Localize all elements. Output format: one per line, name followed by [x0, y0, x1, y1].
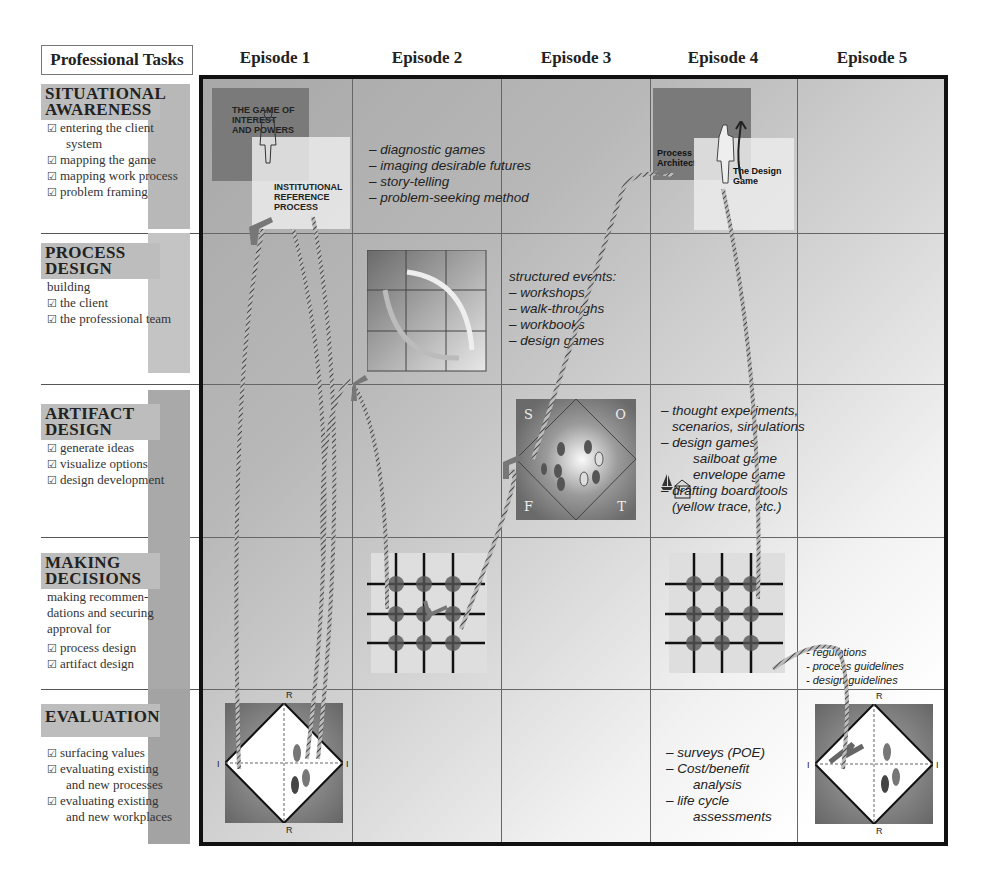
- checkbox-icon: ☑: [47, 120, 60, 136]
- checkbox-icon: ☑: [47, 656, 60, 672]
- task-process-design: PROCESSDESIGN building ☑the client ☑the …: [41, 243, 193, 383]
- task-item: ☑the professional team: [47, 311, 193, 327]
- task-artifact-design: ARTIFACTDESIGN ☑generate ideas ☑visualiz…: [41, 404, 193, 534]
- task-item: ☑mapping work process: [47, 168, 193, 184]
- checkbox-icon: ☑: [47, 152, 60, 168]
- checkbox-icon: ☑: [47, 472, 60, 488]
- episode-1-header: Episode 1: [200, 48, 350, 68]
- task-item: ☑surfacing values: [47, 745, 193, 761]
- episode-3-header: Episode 3: [501, 48, 651, 68]
- task-items: ☑entering the client system ☑mapping the…: [41, 120, 193, 200]
- task-item: ☑visualize options: [47, 456, 193, 472]
- task-item: ☑generate ideas: [47, 440, 193, 456]
- row-divider: [41, 384, 199, 385]
- checkbox-icon: ☑: [47, 168, 60, 184]
- task-items: building ☑the client ☑the professional t…: [41, 279, 193, 327]
- task-items: ☑generate ideas ☑visualize options ☑desi…: [41, 440, 193, 488]
- episode-task-matrix: THE GAME OFINTERESTAND POWERS INSTITUTIO…: [199, 75, 948, 846]
- task-item: ☑process design: [47, 640, 193, 656]
- task-making-decisions: MAKINGDECISIONS making recommen- dations…: [41, 553, 193, 683]
- checkbox-icon: ☑: [47, 295, 60, 311]
- task-title: SITUATIONALAWARENESS: [41, 84, 160, 120]
- task-item: ☑problem framing: [47, 184, 193, 200]
- checkbox-icon: ☑: [47, 761, 60, 777]
- episode-5-header: Episode 5: [797, 48, 947, 68]
- task-item: ☑the client: [47, 295, 193, 311]
- checkbox-icon: ☑: [47, 745, 60, 761]
- task-title: MAKINGDECISIONS: [41, 553, 160, 589]
- checkbox-icon: ☑: [47, 311, 60, 327]
- checkbox-icon: ☑: [47, 440, 60, 456]
- checkbox-icon: ☑: [47, 456, 60, 472]
- task-evaluation: EVALUATION ☑surfacing values ☑evaluating…: [41, 704, 193, 844]
- task-items: ☑surfacing values ☑evaluating existing a…: [41, 745, 193, 825]
- task-item: ☑entering the client: [47, 120, 193, 136]
- task-title: ARTIFACTDESIGN: [41, 404, 160, 440]
- task-title: PROCESSDESIGN: [41, 243, 160, 279]
- professional-tasks-header: Professional Tasks: [41, 45, 193, 75]
- task-item: ☑mapping the game: [47, 152, 193, 168]
- task-item: ☑evaluating existing: [47, 793, 193, 809]
- checkbox-icon: ☑: [47, 184, 60, 200]
- checkbox-icon: ☑: [47, 793, 60, 809]
- episode-2-header: Episode 2: [352, 48, 502, 68]
- task-item: ☑evaluating existing: [47, 761, 193, 777]
- task-items: making recommen- dations and securing ap…: [41, 589, 193, 672]
- task-situational-awareness: SITUATIONALAWARENESS ☑entering the clien…: [41, 84, 193, 229]
- task-item: ☑design development: [47, 472, 193, 488]
- checkbox-icon: ☑: [47, 640, 60, 656]
- process-flow-paths: [203, 79, 944, 842]
- episode-4-header: Episode 4: [648, 48, 798, 68]
- task-title: EVALUATION: [41, 704, 160, 737]
- task-item: ☑artifact design: [47, 656, 193, 672]
